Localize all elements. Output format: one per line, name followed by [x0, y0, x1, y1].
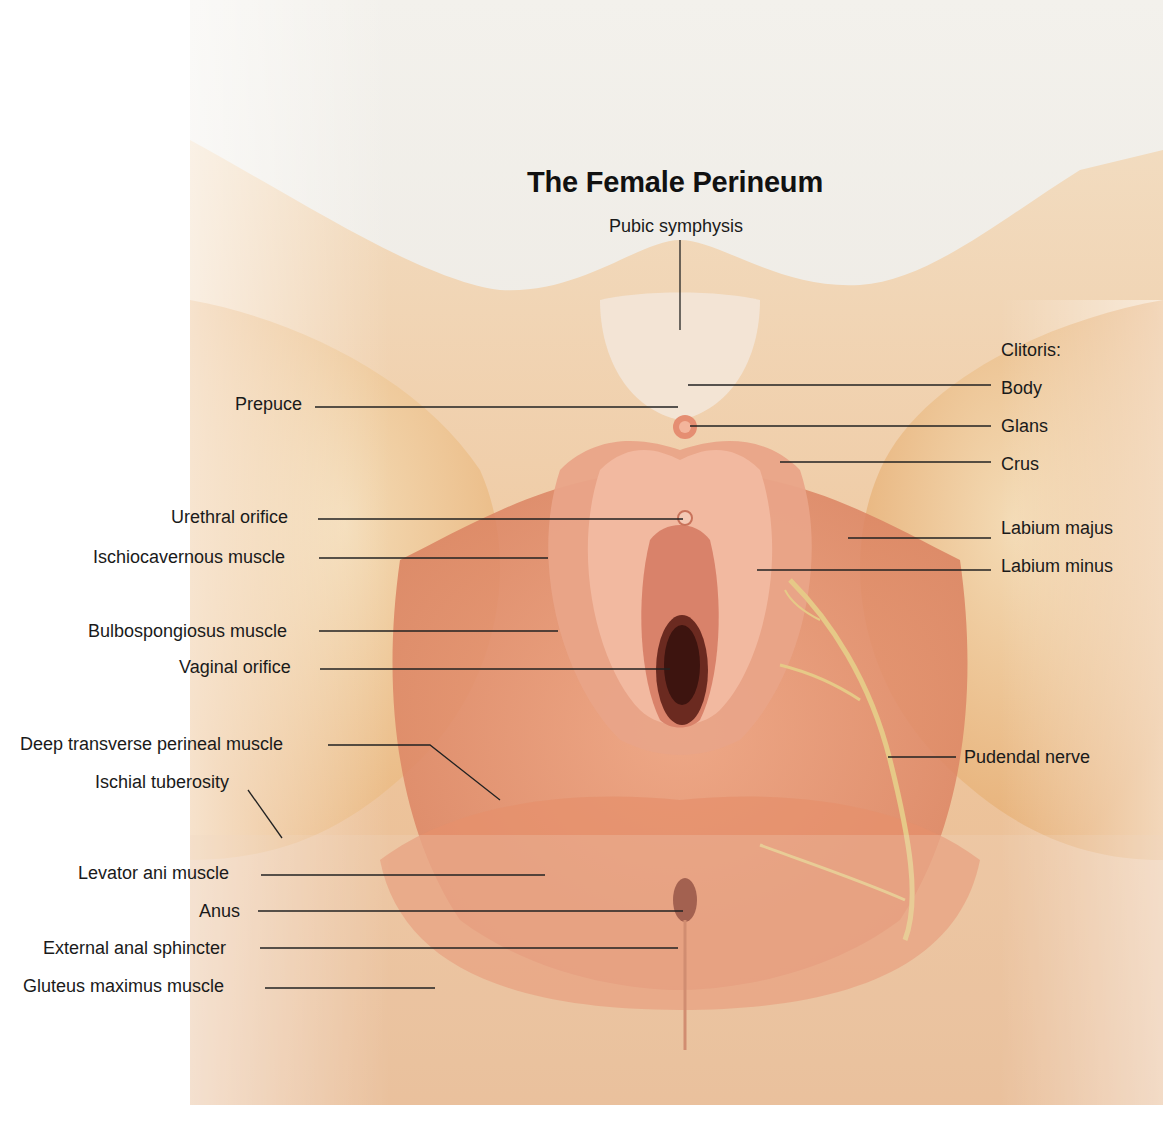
label-external-anal-sphincter: External anal sphincter	[43, 937, 226, 959]
label-clitoris-crus: Crus	[1001, 453, 1039, 475]
label-ischial-tuberosity: Ischial tuberosity	[95, 771, 229, 793]
label-vaginal-orifice: Vaginal orifice	[179, 656, 291, 678]
label-clitoris-glans: Glans	[1001, 415, 1048, 437]
label-levator-ani-muscle: Levator ani muscle	[78, 862, 229, 884]
anatomy-diagram: The Female Perineum Pubic symphysis Prep…	[0, 0, 1163, 1127]
label-ischiocavernous-muscle: Ischiocavernous muscle	[93, 546, 285, 568]
label-pudendal-nerve: Pudendal nerve	[964, 746, 1090, 768]
label-bulbospongiosus-muscle: Bulbospongiosus muscle	[88, 620, 287, 642]
label-urethral-orifice: Urethral orifice	[171, 506, 288, 528]
label-anus: Anus	[199, 900, 240, 922]
label-pubic-symphysis: Pubic symphysis	[609, 215, 743, 237]
diagram-title: The Female Perineum	[527, 166, 823, 199]
label-labium-minus: Labium minus	[1001, 555, 1113, 577]
label-clitoris-body: Body	[1001, 377, 1042, 399]
label-gluteus-maximus-muscle: Gluteus maximus muscle	[23, 975, 224, 997]
label-clitoris-heading: Clitoris:	[1001, 339, 1061, 361]
label-deep-transverse-perineal-muscle: Deep transverse perineal muscle	[20, 733, 283, 755]
label-labium-majus: Labium majus	[1001, 517, 1113, 539]
label-prepuce: Prepuce	[235, 393, 302, 415]
